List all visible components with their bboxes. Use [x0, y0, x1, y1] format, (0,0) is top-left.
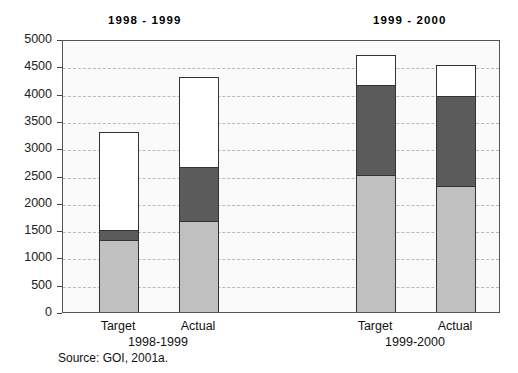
- x-group-label: 1999-2000: [335, 335, 495, 349]
- bar-segment-dark: [437, 97, 475, 187]
- x-tick-label: Actual: [153, 319, 243, 333]
- plot-area: [62, 40, 500, 313]
- bar-segment-dark: [180, 168, 218, 222]
- x-group-label: 1998-1999: [78, 335, 238, 349]
- x-tick-label: Target: [330, 319, 420, 333]
- group-title-1999-2000: 1999 - 2000: [373, 14, 447, 26]
- bar-segment-white: [100, 133, 138, 231]
- y-tick-label: 5000: [4, 32, 52, 46]
- gridline: [63, 96, 499, 97]
- y-tick-label: 1000: [4, 250, 52, 264]
- bar-segment-light: [180, 222, 218, 312]
- gridline: [63, 68, 499, 69]
- bar-segment-white: [357, 56, 395, 86]
- y-tick-label: 0: [4, 305, 52, 319]
- bar-segment-light: [357, 176, 395, 312]
- bar-segment-white: [437, 66, 475, 97]
- x-tick-label: Actual: [410, 319, 500, 333]
- bar-target-1998-1999: [99, 132, 139, 312]
- bar-segment-light: [437, 187, 475, 312]
- source-note: Source: GOI, 2001a.: [58, 351, 168, 365]
- y-tick-label: 1500: [4, 223, 52, 237]
- gridline: [63, 123, 499, 124]
- y-tick-label: 2500: [4, 169, 52, 183]
- y-tick-label: 500: [4, 278, 52, 292]
- bar-actual-1999-2000: [436, 65, 476, 312]
- group-title-1998-1999: 1998 - 1999: [108, 14, 182, 26]
- bar-segment-dark: [100, 231, 138, 242]
- y-tick-label: 2000: [4, 196, 52, 210]
- y-tick-label: 3000: [4, 141, 52, 155]
- y-tick-mark: [57, 313, 62, 314]
- bar-segment-light: [100, 241, 138, 312]
- chart-figure: 1998 - 1999 1999 - 2000 0500100015002000…: [0, 0, 518, 373]
- y-tick-label: 4000: [4, 87, 52, 101]
- bar-target-1999-2000: [356, 55, 396, 312]
- bar-segment-dark: [357, 86, 395, 176]
- y-tick-label: 3500: [4, 114, 52, 128]
- bar-actual-1998-1999: [179, 77, 219, 312]
- x-tick-label: Target: [73, 319, 163, 333]
- bar-segment-white: [180, 78, 218, 168]
- y-tick-label: 4500: [4, 59, 52, 73]
